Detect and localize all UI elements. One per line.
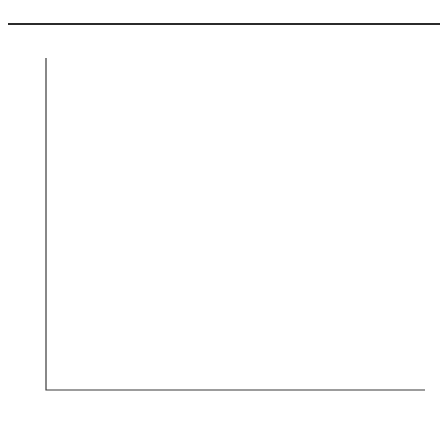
- risk-diversification-figure: [0, 0, 448, 439]
- axis-lines: [46, 58, 425, 390]
- chart-canvas: [0, 0, 448, 439]
- axes: [46, 58, 425, 390]
